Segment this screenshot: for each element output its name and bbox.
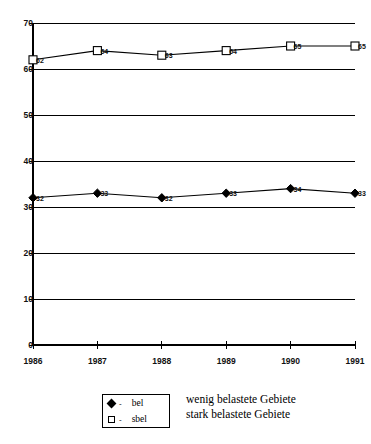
x-tick-label: 1987 bbox=[88, 356, 107, 366]
legend-descriptions: wenig belastete Gebiete stark belastete … bbox=[186, 392, 296, 422]
y-tick-label: 0 bbox=[7, 341, 33, 350]
y-tick-label: 20 bbox=[7, 249, 33, 258]
filled-diamond-icon bbox=[106, 400, 117, 407]
legend-description-sbel: stark belastete Gebiete bbox=[186, 407, 296, 422]
data-point-label: 64 bbox=[229, 48, 237, 55]
legend-label-bel: bel bbox=[132, 398, 144, 408]
data-point-label: 32 bbox=[36, 195, 44, 202]
data-point-label: 32 bbox=[165, 195, 173, 202]
y-tick-label: 50 bbox=[7, 111, 33, 120]
x-tick-label: 1986 bbox=[24, 356, 43, 366]
open-square-icon bbox=[106, 416, 117, 423]
y-tick-label: 60 bbox=[7, 65, 33, 74]
y-axis-labels: 010203040506070 bbox=[0, 0, 33, 380]
legend-item-sbel: - sbel bbox=[103, 411, 169, 427]
y-tick-label: 30 bbox=[7, 203, 33, 212]
x-tick-label: 1991 bbox=[346, 356, 365, 366]
x-tick-label: 1990 bbox=[281, 356, 300, 366]
chart-container: 010203040506070 198619871988198919901991… bbox=[0, 0, 371, 444]
data-point-label: 63 bbox=[165, 52, 173, 59]
x-tick-label: 1989 bbox=[217, 356, 236, 366]
y-tick-label: 10 bbox=[7, 295, 33, 304]
data-point-label: 33 bbox=[229, 190, 237, 197]
chart-legend: - bel - sbel bbox=[102, 394, 170, 428]
data-point-label: 34 bbox=[294, 186, 302, 193]
legend-dash-bel: - bbox=[119, 399, 122, 408]
data-point-label: 65 bbox=[358, 43, 366, 50]
legend-item-bel: - bel bbox=[103, 395, 169, 411]
data-point-label: 65 bbox=[294, 43, 302, 50]
data-point-label: 33 bbox=[358, 190, 366, 197]
y-tick-label: 70 bbox=[7, 19, 33, 28]
legend-dash-sbel: - bbox=[119, 415, 122, 424]
legend-description-bel: wenig belastete Gebiete bbox=[186, 392, 296, 407]
data-point-label: 62 bbox=[36, 57, 44, 64]
x-tick-label: 1988 bbox=[152, 356, 171, 366]
x-axis-labels: 198619871988198919901991 bbox=[0, 356, 371, 372]
data-point-label: 33 bbox=[100, 190, 108, 197]
data-point-label: 64 bbox=[100, 48, 108, 55]
plot-area bbox=[0, 0, 371, 380]
chart-canvas bbox=[0, 0, 371, 380]
legend-label-sbel: sbel bbox=[132, 414, 147, 424]
y-tick-label: 40 bbox=[7, 157, 33, 166]
